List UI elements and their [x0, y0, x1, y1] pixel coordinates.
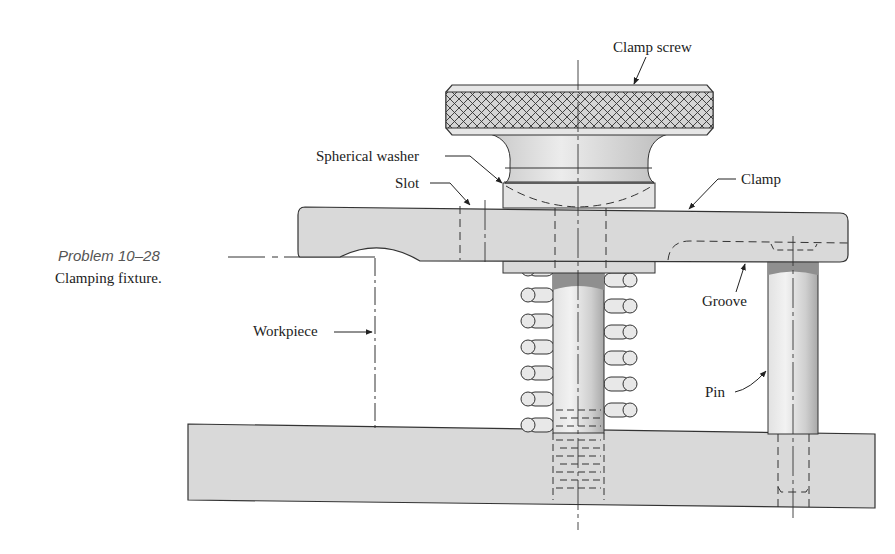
spherical-washer — [503, 183, 655, 208]
workpiece-outline — [228, 257, 375, 428]
spherical-washer-label: Spherical washer — [316, 148, 419, 164]
lower-collar — [503, 261, 655, 273]
label-slot: Slot — [395, 175, 470, 205]
pin-label: Pin — [705, 384, 726, 400]
screw-neck — [490, 134, 668, 183]
slot-label: Slot — [395, 175, 420, 191]
clamp-label: Clamp — [741, 171, 781, 187]
label-clamp: Clamp — [689, 171, 781, 209]
label-clamp-screw: Clamp screw — [613, 39, 692, 84]
groove-label: Groove — [702, 293, 747, 309]
clamping-fixture-diagram: Clamp screw Spherical washer Slot Clamp … — [0, 0, 895, 554]
workpiece-label: Workpiece — [253, 323, 318, 339]
label-groove: Groove — [702, 264, 747, 309]
label-pin: Pin — [705, 371, 766, 400]
knurled-head — [446, 85, 713, 135]
base-plate — [188, 424, 875, 508]
clamp-screw-label: Clamp screw — [613, 39, 692, 55]
label-workpiece: Workpiece — [253, 323, 372, 339]
